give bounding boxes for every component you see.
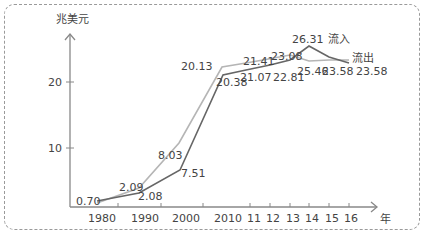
data-label: 0.70 xyxy=(76,195,101,208)
x-tick-label: 13 xyxy=(286,212,300,225)
legend-inflow: 流入 xyxy=(328,32,350,46)
x-tick-label: 12 xyxy=(266,212,280,225)
y-axis-label: 兆美元 xyxy=(56,13,89,26)
data-label: 26.31 xyxy=(292,33,324,46)
data-label: 2.09 xyxy=(119,181,144,194)
y-tick-label-20: 20 xyxy=(48,76,62,89)
data-label: 21.41 xyxy=(243,55,275,68)
data-label: 20.13 xyxy=(181,60,213,73)
data-label: 8.03 xyxy=(158,149,183,162)
x-tick-label: 14 xyxy=(305,212,319,225)
x-tick-label: 2000 xyxy=(172,212,200,225)
x-tick-label: 16 xyxy=(344,212,358,225)
x-tick-label: 1980 xyxy=(88,212,116,225)
y-tick-label-10: 10 xyxy=(48,142,62,155)
x-tick-label: 11 xyxy=(247,212,261,225)
data-label: 21.07 xyxy=(240,71,272,84)
x-axis-label: 年 xyxy=(380,212,391,226)
data-label: 23.08 xyxy=(271,50,303,63)
legend-outflow: 流出 xyxy=(352,51,374,65)
data-label: 23.58 xyxy=(356,65,388,78)
line-chart: 兆美元 年 20 10 1980 1990 2000 2010 11 12 13… xyxy=(0,0,428,237)
x-tick-label: 15 xyxy=(325,212,339,225)
data-label: 7.51 xyxy=(181,167,206,180)
x-tick-label: 2010 xyxy=(214,212,242,225)
x-tick-label: 1990 xyxy=(131,212,159,225)
data-label: 23.58 xyxy=(322,65,354,78)
